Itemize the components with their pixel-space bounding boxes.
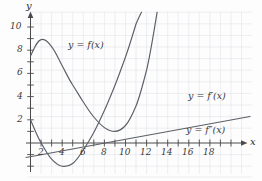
x-tick-label-18: 18 <box>203 147 214 157</box>
curve-label-f-double-prime: y = f″(x) <box>186 124 225 135</box>
y-tick-label-2: 2 <box>17 114 23 124</box>
x-tick-label-10: 10 <box>119 147 130 157</box>
x-tick-label-16: 16 <box>182 147 193 157</box>
graph-figure: y x 2 4 6 8 10 2 4 6 8 10 12 14 16 18 y … <box>0 0 262 181</box>
x-tick-label-12: 12 <box>140 147 151 157</box>
x-axis-label: x <box>250 136 256 147</box>
x-axis <box>26 140 248 147</box>
x-tick-label-2: 2 <box>38 147 44 157</box>
y-tick-label-4: 4 <box>17 91 23 101</box>
curve-label-f: y = f(x) <box>68 39 104 50</box>
y-tick-label-10: 10 <box>10 21 21 31</box>
x-tick-label-8: 8 <box>101 147 107 157</box>
y-tick-label-8: 8 <box>17 44 23 54</box>
x-tick-label-14: 14 <box>161 147 172 157</box>
x-tick-label-4: 4 <box>59 147 65 157</box>
y-axis-label: y <box>26 0 32 11</box>
curve-label-f-prime: y = f′(x) <box>188 90 226 101</box>
y-tick-label-6: 6 <box>17 67 23 77</box>
x-tick-label-6: 6 <box>80 147 86 157</box>
